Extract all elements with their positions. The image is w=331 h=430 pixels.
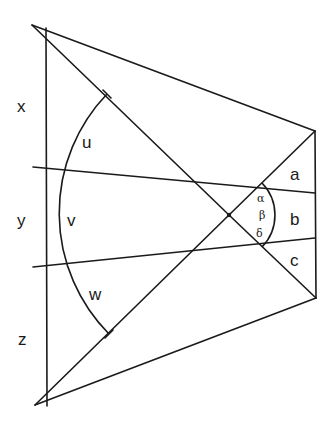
label-b: b bbox=[290, 210, 299, 229]
label-y: y bbox=[17, 211, 26, 230]
label-a: a bbox=[290, 165, 300, 184]
vertex-point bbox=[227, 213, 231, 217]
bottom-ray-line-left bbox=[35, 215, 229, 405]
label-v: v bbox=[67, 211, 76, 230]
label-delta: δ bbox=[256, 227, 263, 240]
label-z: z bbox=[18, 330, 27, 349]
bottom-ray-line bbox=[35, 298, 316, 405]
bottom-ray-line-right bbox=[229, 215, 316, 298]
geometry-diagram: x y z u v w a b c α β δ bbox=[0, 0, 331, 430]
label-beta: β bbox=[259, 209, 265, 222]
label-alpha: α bbox=[257, 192, 265, 205]
top-ray-line-right bbox=[229, 131, 315, 215]
upper-middle-ray-line bbox=[33, 167, 315, 193]
lower-middle-ray-line bbox=[33, 238, 315, 267]
label-u: u bbox=[82, 133, 91, 152]
label-c: c bbox=[290, 251, 299, 270]
top-ray-line bbox=[32, 25, 315, 131]
label-x: x bbox=[17, 97, 26, 116]
label-w: w bbox=[88, 285, 102, 304]
left-transversal-line bbox=[46, 28, 47, 406]
right-transversal-line bbox=[315, 131, 316, 298]
